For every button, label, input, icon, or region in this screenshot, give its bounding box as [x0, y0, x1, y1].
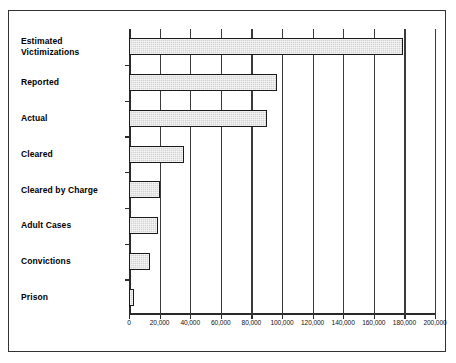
bar [129, 74, 277, 91]
bar [129, 181, 160, 198]
gridline [160, 29, 161, 315]
y-axis-tick [125, 65, 129, 66]
gridline [313, 29, 314, 315]
category-label-line: Estimated [21, 36, 129, 47]
x-axis-tick-label: 20,000 [150, 319, 170, 326]
x-axis-tick-label: 180,000 [393, 319, 416, 326]
category-label-line: Prison [21, 292, 129, 303]
category-label: Adult Cases [21, 220, 129, 231]
category-label-line: Convictions [21, 256, 129, 267]
x-axis-tick-label: 200,000 [423, 319, 446, 326]
gridline [343, 29, 344, 315]
category-label: Convictions [21, 256, 129, 267]
x-axis-tick-label: 120,000 [301, 319, 324, 326]
category-axis-labels: EstimatedVictimizationsReportedActualCle… [21, 19, 129, 315]
x-axis-tick-label: 100,000 [270, 319, 293, 326]
y-axis-tick [125, 172, 129, 173]
y-axis-tick [125, 136, 129, 137]
gridline [251, 29, 252, 315]
x-axis-tick-label: 140,000 [332, 319, 355, 326]
gridline [404, 29, 405, 315]
chart-frame: EstimatedVictimizationsReportedActualCle… [8, 10, 446, 352]
category-label-line: Reported [21, 77, 129, 88]
category-label: Cleared by Charge [21, 185, 129, 196]
gridline [221, 29, 222, 315]
bar [129, 253, 150, 270]
gridline [374, 29, 375, 315]
x-axis-tick-label: 80,000 [242, 319, 262, 326]
y-axis-tick [125, 101, 129, 102]
gridline [190, 29, 191, 315]
y-axis-tick [125, 279, 129, 280]
category-label-line: Victimizations [21, 47, 129, 58]
category-label: Actual [21, 113, 129, 124]
category-label: Reported [21, 77, 129, 88]
x-axis-tick-label: 40,000 [180, 319, 200, 326]
category-label: Cleared [21, 149, 129, 160]
category-label-line: Actual [21, 113, 129, 124]
gridline [435, 29, 436, 315]
category-label: EstimatedVictimizations [21, 36, 129, 57]
x-axis-tick-label: 60,000 [211, 319, 231, 326]
category-label: Prison [21, 292, 129, 303]
bar [129, 217, 158, 234]
x-axis-tick-label: 0 [127, 319, 131, 326]
y-axis-tick [125, 208, 129, 209]
x-axis-tick-label: 160,000 [362, 319, 385, 326]
bar [129, 146, 184, 163]
y-axis-tick [125, 244, 129, 245]
bar [129, 38, 403, 55]
x-axis-tick-labels: 020,00040,00060,00080,000100,000120,0001… [129, 319, 456, 333]
y-axis-line [129, 29, 131, 315]
bar [129, 289, 134, 306]
category-label-line: Cleared [21, 149, 129, 160]
gridline [282, 29, 283, 315]
category-label-line: Cleared by Charge [21, 185, 129, 196]
plot-area [129, 29, 435, 315]
category-label-line: Adult Cases [21, 220, 129, 231]
bar [129, 110, 267, 127]
